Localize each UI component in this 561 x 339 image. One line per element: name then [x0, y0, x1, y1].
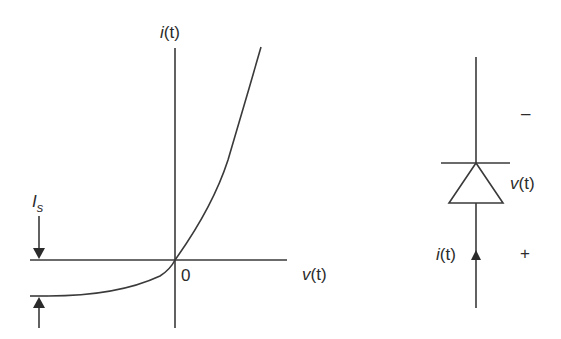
- origin-label: 0: [181, 267, 190, 284]
- plus-sign: +: [520, 245, 530, 262]
- saturation-label-sub: s: [37, 200, 44, 215]
- current-label-arg: (t): [440, 245, 456, 264]
- current-direction-arrow-icon: [471, 250, 481, 260]
- minus-sign: –: [521, 105, 530, 122]
- x-axis-label-arg: (t): [311, 265, 327, 284]
- x-axis-label: v(t): [302, 266, 327, 283]
- diode-current-label: i(t): [436, 246, 456, 263]
- x-axis-label-var: v: [302, 265, 311, 284]
- saturation-current-label: Is: [32, 193, 43, 210]
- y-axis-label: i(t): [160, 24, 180, 41]
- y-axis-label-arg: (t): [164, 23, 180, 42]
- is-arrowhead-up-icon: [33, 297, 45, 308]
- diode-voltage-label: v(t): [510, 175, 535, 192]
- voltage-label-var: v: [510, 174, 519, 193]
- voltage-label-arg: (t): [519, 174, 535, 193]
- iv-curve: [48, 47, 261, 296]
- diode-triangle: [449, 163, 503, 203]
- diode-figure: [0, 0, 561, 339]
- is-arrowhead-down-icon: [33, 248, 45, 259]
